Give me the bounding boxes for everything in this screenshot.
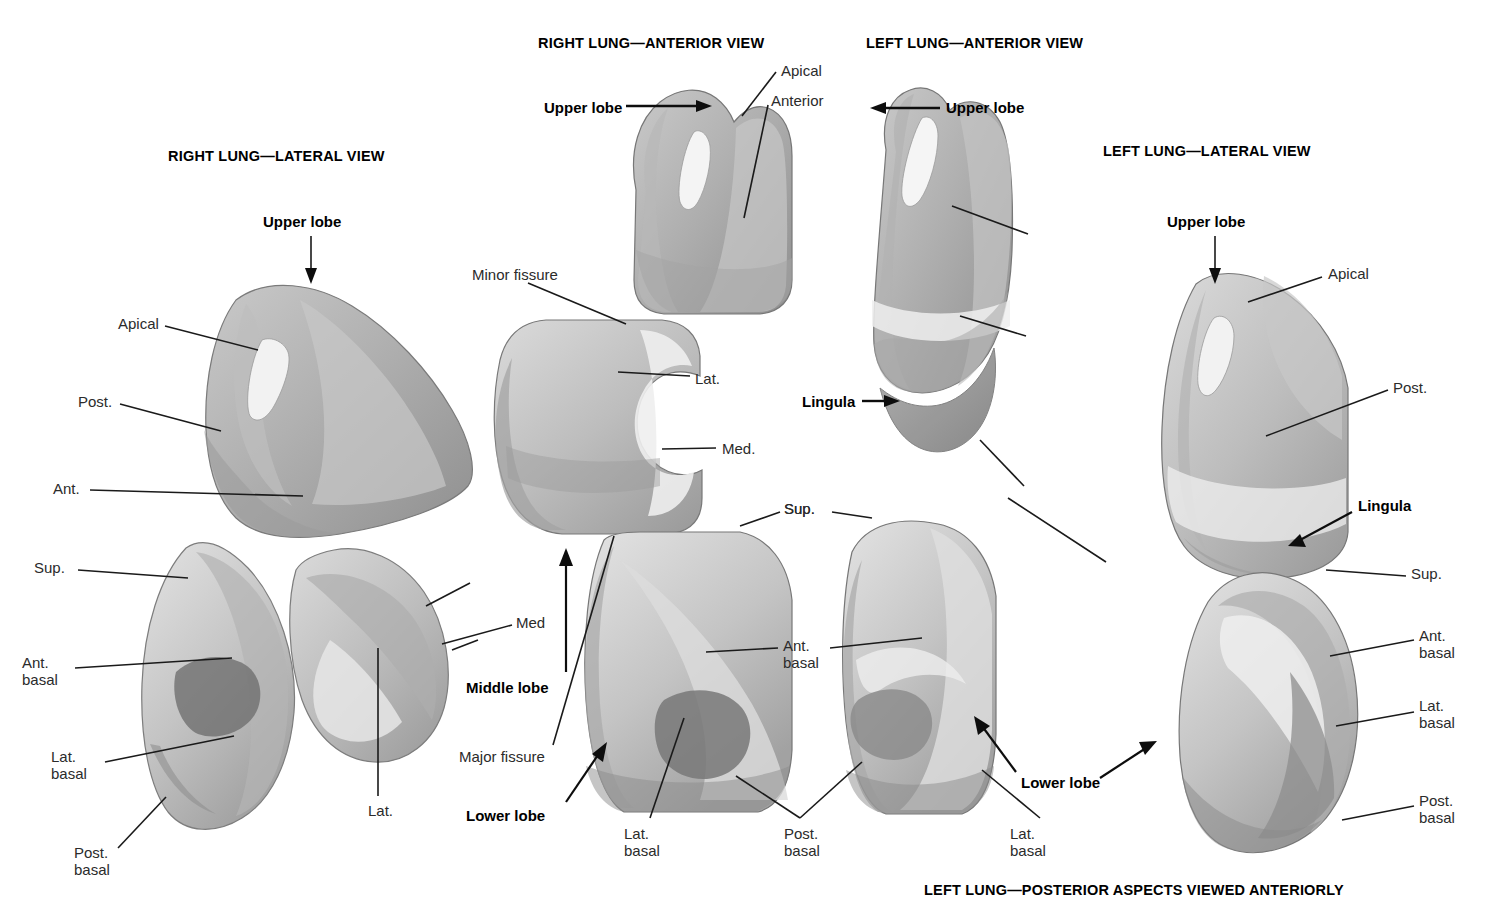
leader-ra-post-basal bbox=[736, 776, 800, 818]
arrow-ra-upper-lobe bbox=[626, 100, 712, 112]
leader-ll-apical bbox=[1248, 277, 1322, 302]
arrow-ll-lower-lobe bbox=[1100, 741, 1157, 778]
label-rl-ant-basal: Ant. basal bbox=[22, 655, 58, 689]
label-ra-med: Med bbox=[516, 615, 545, 632]
leader-rl-sup bbox=[78, 570, 188, 578]
leader-rl-lat-basal bbox=[105, 736, 234, 762]
leader-ra-lat bbox=[618, 372, 690, 376]
leader-ra-lat-basal bbox=[650, 718, 684, 818]
label-ra-major-fissure: Major fissure bbox=[459, 749, 545, 766]
label-ra-lat-basal: Lat. basal bbox=[624, 826, 660, 860]
label-ra-upper-lobe: Upper lobe bbox=[544, 100, 622, 117]
arrowhead-rl-upper-lobe bbox=[305, 268, 317, 284]
leader-la-inner-upper bbox=[952, 206, 1028, 234]
leader-ll-lat-basal bbox=[1336, 712, 1414, 726]
label-ra-anterior: Anterior bbox=[771, 93, 824, 110]
leader-rl-post-basal bbox=[118, 797, 166, 848]
label-ll-ant-basal: Ant. basal bbox=[1419, 628, 1455, 662]
view-title-right-lateral: RIGHT LUNG—LATERAL VIEW bbox=[168, 148, 385, 164]
leader-rl-sup2 bbox=[426, 583, 470, 606]
specimen-right-upper-lobe-lateral bbox=[204, 285, 472, 537]
arrow-ll-lingula bbox=[1288, 512, 1352, 547]
label-ra-lat: Lat. bbox=[695, 371, 720, 388]
specimen-left-upper-lobe-anterior bbox=[872, 88, 1013, 452]
label-ll-lingula: Lingula bbox=[1358, 498, 1411, 515]
leader-ra-major-fissure bbox=[553, 536, 614, 745]
label-ra-post-basal: Post. basal bbox=[784, 826, 820, 860]
label-la-upper-lobe: Upper lobe bbox=[946, 100, 1024, 117]
label-la-lower-lobe: Lower lobe bbox=[1021, 775, 1100, 792]
specimen-right-superior-segment bbox=[290, 549, 449, 762]
label-ll-sup: Sup. bbox=[1411, 566, 1442, 583]
leader-ra-minor-fissure bbox=[528, 283, 626, 324]
specimen-right-lower-lobe-anterior bbox=[585, 532, 792, 812]
leader-ll-sup bbox=[1326, 570, 1406, 576]
leader-la-ant-basal bbox=[830, 638, 922, 648]
label-ra-med-dot: Med. bbox=[722, 441, 755, 458]
view-title-left-lateral: LEFT LUNG—LATERAL VIEW bbox=[1103, 143, 1311, 159]
label-ra-apical: Apical bbox=[781, 63, 822, 80]
label-ll-upper-lobe: Upper lobe bbox=[1167, 214, 1245, 231]
leader-la-lower-inner bbox=[1008, 498, 1106, 562]
label-rl-apical: Apical bbox=[118, 316, 159, 333]
arrowhead-ll-upper-lobe bbox=[1209, 268, 1221, 284]
label-rl-ant: Ant. bbox=[53, 481, 80, 498]
view-title-left-anterior: LEFT LUNG—ANTERIOR VIEW bbox=[866, 35, 1083, 51]
leader-ra-med-dot bbox=[662, 448, 716, 449]
specimen-right-lower-lobe-lateral bbox=[142, 543, 295, 829]
label-la-sup: Sup. bbox=[784, 501, 815, 518]
leader-rl-post bbox=[120, 404, 221, 431]
label-rl-post: Post. bbox=[78, 394, 112, 411]
leader-ra-anterior bbox=[744, 105, 768, 218]
arrow-la-lingula bbox=[862, 395, 900, 407]
leader-la-post-basal bbox=[800, 762, 862, 818]
label-ra-middle-lobe: Middle lobe bbox=[466, 680, 549, 697]
leader-la-sup bbox=[832, 512, 872, 518]
leader-rl-apical bbox=[165, 326, 258, 350]
label-ra-ant-basal: Ant. basal bbox=[783, 638, 819, 672]
arrow-la-upper-lobe bbox=[870, 102, 940, 114]
label-rl-post-basal: Post. basal bbox=[74, 845, 110, 879]
label-rl-lat-basal: Lat. basal bbox=[51, 749, 87, 783]
specimen-left-lower-lobe-lateral bbox=[1179, 573, 1358, 853]
arrow-la-lower-lobe bbox=[974, 716, 1016, 772]
leader-ll-ant-basal bbox=[1330, 640, 1414, 656]
leader-la-inner-low bbox=[980, 440, 1024, 486]
label-ll-post: Post. bbox=[1393, 380, 1427, 397]
leader-ll-post bbox=[1266, 390, 1388, 436]
leader-ll-post-basal bbox=[1342, 806, 1414, 820]
leader-lines bbox=[75, 72, 1414, 848]
label-ll-post-basal: Post. basal bbox=[1419, 793, 1455, 827]
leader-ra-med bbox=[442, 625, 512, 644]
label-rl-sup: Sup. bbox=[34, 560, 65, 577]
view-title-right-anterior: RIGHT LUNG—ANTERIOR VIEW bbox=[538, 35, 764, 51]
label-rl-lat: Lat. bbox=[368, 803, 393, 820]
figure-canvas: RIGHT LUNG—LATERAL VIEWRIGHT LUNG—ANTERI… bbox=[0, 0, 1492, 916]
arrow-ra-lower-lobe bbox=[566, 742, 607, 802]
label-ra-lower-lobe: Lower lobe bbox=[466, 808, 545, 825]
arrow-ra-middle-lobe bbox=[559, 548, 573, 672]
specimen-left-upper-lobe-lateral bbox=[1162, 274, 1348, 579]
specimen-artwork bbox=[0, 0, 1492, 916]
leader-ra-sup bbox=[740, 512, 780, 526]
specimen-left-lower-lobe-anterior bbox=[843, 521, 996, 814]
label-rl-upper-lobe: Upper lobe bbox=[263, 214, 341, 231]
leader-la-inner-mid bbox=[960, 316, 1026, 336]
leader-rl-middle bbox=[452, 640, 478, 650]
label-la-lat-basal: Lat. basal bbox=[1010, 826, 1046, 860]
label-la-lingula: Lingula bbox=[802, 394, 855, 411]
label-ll-apical: Apical bbox=[1328, 266, 1369, 283]
leader-ra-ant-basal bbox=[706, 648, 778, 652]
leader-rl-ant-basal bbox=[75, 658, 232, 668]
label-ra-minor-fissure: Minor fissure bbox=[472, 267, 558, 284]
figure-caption: LEFT LUNG—POSTERIOR ASPECTS VIEWED ANTER… bbox=[924, 882, 1344, 898]
pointer-arrows bbox=[305, 100, 1352, 802]
specimen-right-middle-lobe bbox=[494, 320, 702, 534]
specimen-right-upper-lobe-anterior bbox=[633, 90, 792, 314]
label-ll-lat-basal: Lat. basal bbox=[1419, 698, 1455, 732]
leader-rl-ant bbox=[90, 490, 303, 496]
